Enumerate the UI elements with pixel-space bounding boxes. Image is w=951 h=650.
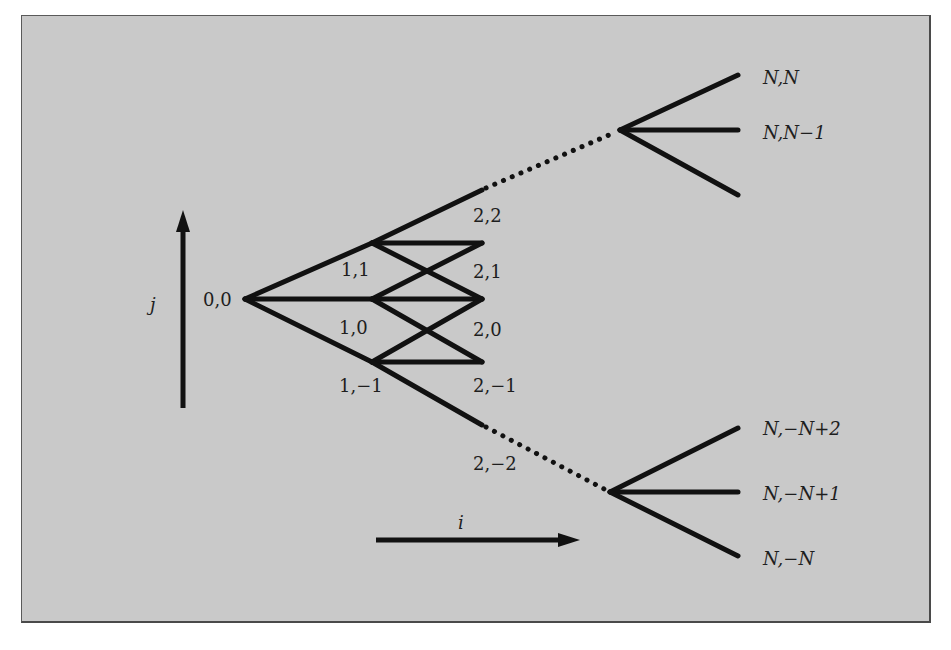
node-label-1-1: 1,1 [341, 259, 370, 280]
j-axis-arrow [176, 210, 190, 408]
node-label-0-0: 0,0 [203, 289, 232, 310]
node-label-N-mN: N,−N [762, 548, 815, 569]
trinomial-tree-diagram: j i 0,0 1,1 1,0 [0, 0, 951, 650]
node-label-2-m1: 2,−1 [473, 375, 517, 396]
node-label-N-mNp1: N,−N+1 [762, 483, 841, 504]
dotted-continuation [486, 132, 616, 490]
i-axis-arrow [376, 533, 580, 547]
figure-caption-cropped [0, 638, 951, 650]
node-label-2-1: 2,1 [473, 261, 502, 282]
node-label-N-mNp2: N,−N+2 [762, 418, 841, 439]
node-label-N-N: N,N [762, 67, 800, 88]
node-label-2-2: 2,2 [473, 205, 502, 226]
node-label-N-Nm1: N,N−1 [762, 122, 826, 143]
node-label-1-m1: 1,−1 [339, 375, 383, 396]
i-axis-label: i [458, 512, 464, 533]
node-label-1-0: 1,0 [339, 317, 368, 338]
j-axis-label: j [146, 294, 156, 315]
node-label-2-0: 2,0 [473, 319, 502, 340]
tree-edges [245, 75, 738, 556]
node-label-2-m2: 2,−2 [473, 453, 517, 474]
